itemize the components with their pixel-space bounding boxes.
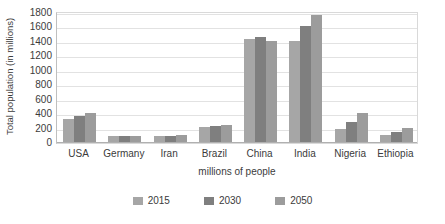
legend-label: 2015 <box>148 196 170 206</box>
bar <box>380 135 391 142</box>
bar <box>391 132 402 142</box>
y-axis-tick-label: 600 <box>35 95 52 105</box>
x-axis-tick-label: Germany <box>103 148 144 160</box>
bar <box>266 41 277 142</box>
x-axis-tick-label: Nigeria <box>334 148 366 160</box>
bar <box>311 15 322 142</box>
legend-item[interactable]: 2015 <box>133 196 170 206</box>
bar <box>346 122 357 142</box>
bar <box>199 127 210 142</box>
legend-label: 2050 <box>290 196 312 206</box>
y-axis-tick-label: 1400 <box>30 37 52 47</box>
x-axis-baseline <box>57 142 417 143</box>
bar-chart: Total population (in millions) 180016001… <box>0 0 445 224</box>
legend-swatch-icon <box>204 197 214 205</box>
bar <box>85 113 96 142</box>
bar <box>357 113 368 142</box>
x-axis-tick-label: India <box>294 148 316 160</box>
y-axis-tick-label: 1000 <box>30 66 52 76</box>
legend: 201520302050 <box>0 196 445 206</box>
x-axis-tick-label: Ethiopia <box>377 148 413 160</box>
x-axis-tick-label: China <box>247 148 273 160</box>
bar <box>244 39 255 142</box>
bar-group <box>374 12 419 142</box>
y-axis-tick-labels: 180016001400120010008006004002000 <box>18 12 52 144</box>
plot-area <box>56 12 418 144</box>
y-axis-title-text: Total population (in millions) <box>5 17 16 134</box>
bar <box>300 26 311 142</box>
bar <box>289 41 300 142</box>
bar-group <box>283 12 328 142</box>
legend-item[interactable]: 2050 <box>275 196 312 206</box>
bar <box>210 126 221 142</box>
legend-swatch-icon <box>275 197 285 205</box>
y-axis-tick-label: 1800 <box>30 8 52 18</box>
x-axis-tick-label: Brazil <box>202 148 227 160</box>
y-axis-title: Total population (in millions) <box>2 0 18 152</box>
y-axis-tick-label: 200 <box>35 124 52 134</box>
y-axis-tick-label: 400 <box>35 109 52 119</box>
x-axis-tick-label: USA <box>68 148 89 160</box>
bar <box>221 125 232 142</box>
legend-item[interactable]: 2030 <box>204 196 241 206</box>
bar <box>255 37 266 142</box>
bar-group <box>193 12 238 142</box>
x-axis-title: millions of people <box>56 166 418 177</box>
bar <box>335 129 346 142</box>
y-axis-tick-label: 0 <box>46 138 52 148</box>
x-axis-tick-labels: USAGermanyIranBrazilChinaIndiaNigeriaEth… <box>56 148 418 162</box>
y-axis-tick-label: 800 <box>35 80 52 90</box>
legend-label: 2030 <box>219 196 241 206</box>
bar <box>402 128 413 142</box>
x-axis-tick-label: Iran <box>161 148 178 160</box>
y-axis-tick-label: 1200 <box>30 51 52 61</box>
bar-group <box>148 12 193 142</box>
bars-layer <box>57 13 417 143</box>
bar <box>63 119 74 142</box>
legend-swatch-icon <box>133 197 143 205</box>
bar-group <box>238 12 283 142</box>
bar <box>74 116 85 142</box>
bar-group <box>329 12 374 142</box>
bar-group <box>102 12 147 142</box>
bar <box>176 135 187 142</box>
y-axis-tick-label: 1600 <box>30 22 52 32</box>
bar-group <box>57 12 102 142</box>
